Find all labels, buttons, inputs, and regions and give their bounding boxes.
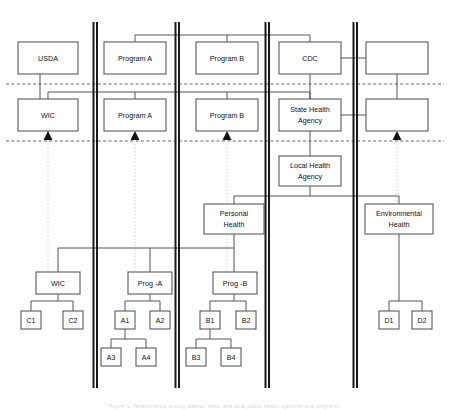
node-c1-label: C1 [27,317,36,324]
node-usda-label: USDA [38,54,58,63]
divider-2 [175,22,181,388]
node-b2[interactable]: B2 [236,311,256,329]
node-usda[interactable]: USDA [18,42,78,74]
node-d2-label: D2 [418,317,427,324]
node-state-blank[interactable] [366,99,428,131]
node-b1-label: B1 [206,317,215,324]
arrow-blank-right-icon [393,131,402,140]
node-a2-label: A2 [156,317,165,324]
node-state-program-b-label: Program B [210,111,245,120]
node-personal-health-label-line2: Health [224,220,245,229]
node-prog-b-label: Prog -B [223,279,248,288]
node-c2-label: C2 [69,317,78,324]
node-fed-program-a[interactable]: Program A [104,42,166,74]
node-fed-blank[interactable] [366,42,428,74]
node-cdc-label: CDC [302,54,318,63]
node-d2[interactable]: D2 [412,311,432,329]
node-local-health-agency-label-line2: Agency [298,172,322,181]
node-prog-a[interactable]: Prog -A [128,272,172,294]
figure-caption: Figure 1. Relationships among federal, s… [0,403,450,409]
node-a4[interactable]: A4 [136,348,156,366]
arrow-wic-icon [44,131,53,140]
node-d1[interactable]: D1 [379,311,399,329]
node-c1[interactable]: C1 [21,311,41,329]
node-local-health-agency-label-line1: Local Health [290,161,330,170]
node-cdc[interactable]: CDC [279,42,341,74]
node-state-program-a-label: Program A [118,111,152,120]
figure-canvas: USDA Program A Program B CDC WIC Program… [0,0,450,410]
divider-4 [353,22,359,388]
node-wic-state[interactable]: WIC [18,99,78,131]
node-a3-label: A3 [107,354,116,361]
node-personal-health[interactable]: Personal Health [204,204,264,234]
node-c2[interactable]: C2 [63,311,83,329]
arrow-program-a-icon [131,131,140,140]
node-a4-label: A4 [142,354,151,361]
node-prog-b[interactable]: Prog -B [213,272,257,294]
node-fed-program-b-label: Program B [210,54,245,63]
node-a1[interactable]: A1 [115,311,135,329]
node-personal-health-label-line1: Personal [220,209,249,218]
node-state-program-a[interactable]: Program A [104,99,166,131]
node-state-health-agency-label-line1: State Health [290,105,330,114]
node-local-health-agency[interactable]: Local Health Agency [279,156,341,186]
node-environmental-health[interactable]: Environmental Health [365,204,433,234]
node-environmental-health-label-line1: Environmental [376,209,422,218]
node-a3[interactable]: A3 [101,348,121,366]
node-wic-local-label: WIC [51,279,65,288]
wic-subtree-connectors [31,294,73,311]
divider-1 [93,22,99,388]
node-b1[interactable]: B1 [200,311,220,329]
node-wic-state-label: WIC [41,111,55,120]
node-wic-local[interactable]: WIC [36,272,80,294]
node-a2[interactable]: A2 [150,311,170,329]
node-fed-program-a-label: Program A [118,54,152,63]
node-b4[interactable]: B4 [221,348,241,366]
node-b3-label: B3 [192,354,201,361]
node-state-program-b[interactable]: Program B [196,99,258,131]
node-a1-label: A1 [121,317,130,324]
node-state-health-agency[interactable]: State Health Agency [279,99,341,131]
node-b3[interactable]: B3 [186,348,206,366]
node-fed-program-b[interactable]: Program B [196,42,258,74]
node-b4-label: B4 [227,354,236,361]
org-diagram: USDA Program A Program B CDC WIC Program… [0,0,450,410]
node-state-health-agency-label-line2: Agency [298,116,322,125]
divider-3 [265,22,271,388]
node-b2-label: B2 [242,317,251,324]
node-prog-a-label: Prog -A [138,279,163,288]
node-environmental-health-label-line2: Health [389,220,410,229]
node-d1-label: D1 [385,317,394,324]
arrow-program-b-icon [223,131,232,140]
